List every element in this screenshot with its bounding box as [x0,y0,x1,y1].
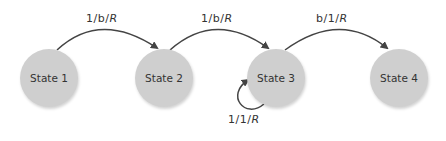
arrow-s1-s2 [57,29,157,50]
state-4: State 4 [370,49,428,107]
label-s3-s4: b/1/R [316,12,348,25]
state-1: State 1 [20,49,78,107]
state-2-label: State 2 [145,72,183,84]
label-s2-s3: 1/b/R [201,12,233,25]
label-s1-s2: 1/b/R [86,12,118,25]
arrow-s2-s3 [170,29,268,50]
state-1-label: State 1 [30,72,68,84]
state-3-label: State 3 [257,72,295,84]
state-2: State 2 [135,49,193,107]
arrow-s3-s4 [285,29,387,50]
state-3: State 3 [247,49,305,107]
label-s3-loop: 1/1/R [228,113,260,126]
state-4-label: State 4 [380,72,418,84]
